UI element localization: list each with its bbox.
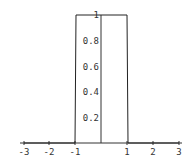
y-tick: 0.2 bbox=[83, 113, 99, 123]
x-tick: 2 bbox=[150, 147, 155, 157]
y-tick: 0.4 bbox=[83, 87, 99, 97]
x-tick: 3 bbox=[176, 147, 181, 157]
y-tick: 0.6 bbox=[83, 62, 99, 72]
x-tick: -2 bbox=[44, 147, 55, 157]
y-axis: 0.2 0.4 0.6 0.8 1 bbox=[83, 10, 101, 143]
x-tick: 1 bbox=[124, 147, 129, 157]
y-tick: 0.8 bbox=[83, 36, 99, 46]
x-tick: -3 bbox=[19, 147, 30, 157]
chart: -3 -2 -1 1 2 3 0.2 0.4 0.6 0.8 1 bbox=[0, 0, 193, 160]
x-tick: -1 bbox=[70, 147, 81, 157]
